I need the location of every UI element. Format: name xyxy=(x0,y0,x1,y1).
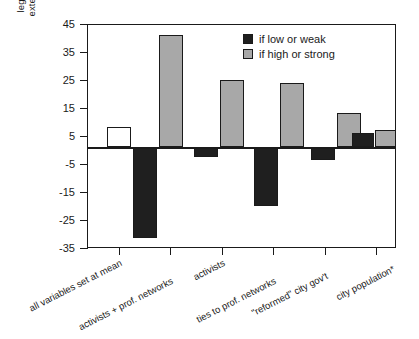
y-axis-title-line-2: extent of departmental adoption xyxy=(26,0,38,16)
x-axis-label-activists-prof-networks: activists + prof. networks xyxy=(77,276,174,332)
legend: if low or weak if high or strong xyxy=(243,32,335,62)
bar-activists-prof-networks-high xyxy=(159,35,183,147)
x-tick-mark-0 xyxy=(119,248,120,255)
legend-label-high-or-strong: if high or strong xyxy=(259,49,335,60)
bar-activists-high xyxy=(220,80,244,147)
y-tick-mark-m35 xyxy=(80,248,88,249)
y-tick-label-35: 35 xyxy=(63,47,75,58)
bar-chart-figure: legalized accountability index: extent o… xyxy=(0,0,419,339)
y-tick-label-5: 5 xyxy=(69,131,75,142)
zero-baseline xyxy=(87,147,396,149)
bar-city-population-low xyxy=(352,133,374,147)
bar-reformed-city-govt-low xyxy=(311,147,335,160)
x-axis-label-city-population: city population* xyxy=(335,264,397,302)
legend-item-low-or-weak: if low or weak xyxy=(243,32,335,46)
y-tick-label-15: 15 xyxy=(63,103,75,114)
legend-swatch-low-icon xyxy=(243,34,253,44)
x-tick-mark-5 xyxy=(376,248,377,255)
legend-swatch-high-icon xyxy=(243,49,253,59)
x-tick-mark-1 xyxy=(170,248,171,255)
bar-all-variables-set-at-mean xyxy=(107,127,131,147)
bar-city-population-high xyxy=(375,130,396,147)
x-tick-mark-3 xyxy=(273,248,274,255)
legend-item-high-or-strong: if high or strong xyxy=(243,47,335,61)
x-tick-mark-4 xyxy=(325,248,326,255)
y-axis-title-line-1: legalized accountability index: xyxy=(15,0,27,16)
y-tick-label-25: 25 xyxy=(63,75,75,86)
y-tick-label-45: 45 xyxy=(63,19,75,30)
y-tick-label-m15: -15 xyxy=(59,187,75,198)
y-tick-label-m5: -5 xyxy=(65,159,75,170)
legend-label-low-or-weak: if low or weak xyxy=(259,34,326,45)
y-tick-label-m35: -35 xyxy=(59,243,75,254)
y-axis-title: legalized accountability index: extent o… xyxy=(8,0,44,60)
x-tick-mark-2 xyxy=(222,248,223,255)
x-axis-label-activists: activists xyxy=(192,258,227,282)
bar-ties-to-prof-networks-low xyxy=(254,147,278,206)
x-axis-label-reformed-city-govt: "reformed" city gov't xyxy=(250,271,329,318)
bar-ties-to-prof-networks-high xyxy=(280,83,304,147)
y-tick-label-m25: -25 xyxy=(59,215,75,226)
bar-activists-prof-networks-low xyxy=(133,147,157,238)
